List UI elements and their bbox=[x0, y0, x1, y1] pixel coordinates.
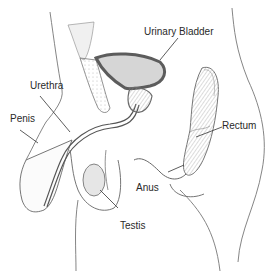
body-outline bbox=[26, 8, 264, 271]
label-anus: Anus bbox=[136, 182, 159, 193]
label-urinary-bladder: Urinary Bladder bbox=[144, 26, 213, 37]
leader-urethra bbox=[40, 96, 70, 132]
anatomy-diagram: Urinary Bladder Urethra Penis Rectum Anu… bbox=[0, 0, 271, 271]
leader-anus bbox=[168, 165, 184, 172]
label-rectum: Rectum bbox=[222, 120, 256, 131]
leader-testis bbox=[100, 190, 118, 208]
leader-urinary-bladder bbox=[160, 38, 178, 60]
label-testis: Testis bbox=[120, 220, 146, 231]
label-penis: Penis bbox=[10, 113, 35, 124]
leader-penis bbox=[20, 130, 38, 143]
label-urethra: Urethra bbox=[30, 80, 63, 91]
